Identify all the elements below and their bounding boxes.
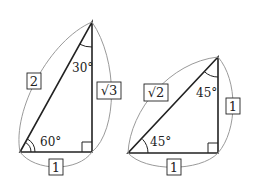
hypotenuse-label: 2 (30, 74, 38, 89)
right-angle-marker (82, 142, 92, 152)
top-angle-label: 30° (72, 61, 93, 75)
angle-arc-45-bottom (143, 139, 148, 153)
vertical-leg-label: 1 (229, 99, 237, 114)
angle-arc-60-inner (25, 142, 31, 152)
base-label: 1 (52, 160, 60, 175)
triangle-30-60-90: 2 √3 1 30° 60° (19, 22, 121, 175)
vertical-leg-label: √3 (101, 83, 118, 98)
triangle-45-45-90: √2 1 1 45° 45° (128, 57, 240, 175)
top-angle-label: 45° (196, 86, 217, 100)
angle-arc-45-top (204, 72, 218, 77)
right-angle-marker (208, 143, 218, 153)
bottom-left-angle-label: 60° (40, 135, 61, 149)
hypotenuse-label: √2 (148, 85, 165, 100)
angle-arc-30 (80, 44, 92, 47)
special-right-triangles-diagram: 2 √3 1 30° 60° √2 1 1 45° 45° (0, 0, 264, 193)
bottom-left-angle-label: 45° (150, 135, 171, 149)
base-label: 1 (170, 160, 178, 175)
